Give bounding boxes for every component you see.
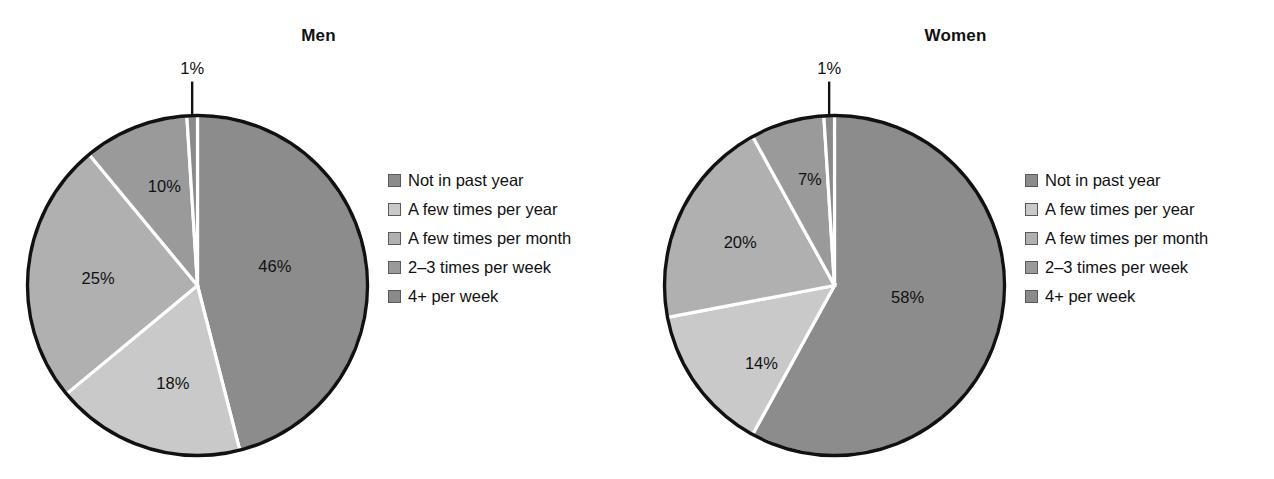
slice-label: 10% [148,177,181,195]
legend-item[interactable]: A few times per year [388,195,628,224]
legend-label: A few times per month [1045,230,1208,247]
legend-swatch-icon [388,261,401,274]
legend-item[interactable]: 2–3 times per week [1025,253,1265,282]
slice-label: 7% [798,170,822,188]
legend-label: 2–3 times per week [1045,259,1188,276]
panel-men: Men 46%18%25%10%1% Not in past yearA few… [0,0,637,479]
legend-swatch-icon [1025,290,1038,303]
slice-label: 14% [745,354,778,372]
legend-item[interactable]: Not in past year [388,166,628,195]
panel-title: Women [637,26,1274,46]
legend-label: Not in past year [1045,172,1161,189]
legend-item[interactable]: A few times per month [1025,224,1265,253]
slice-label: 1% [817,59,841,77]
pie-chart-men: 46%18%25%10%1% [25,113,370,458]
legend-item[interactable]: Not in past year [1025,166,1265,195]
slice-label: 20% [724,233,757,251]
slice-label: 1% [180,59,204,77]
legend-swatch-icon [388,232,401,245]
legend-label: A few times per year [1045,201,1194,218]
legend-swatch-icon [388,174,401,187]
legend-item[interactable]: 4+ per week [1025,282,1265,311]
legend-item[interactable]: A few times per month [388,224,628,253]
legend-label: A few times per year [408,201,557,218]
pie-svg: 58%14%20%7%1% [662,113,1007,458]
legend-swatch-icon [1025,261,1038,274]
legend-swatch-icon [1025,203,1038,216]
legend-label: 4+ per week [1045,288,1135,305]
legend-swatch-icon [1025,232,1038,245]
panel-title: Men [0,26,637,46]
legend-label: 4+ per week [408,288,498,305]
slice-label: 58% [891,288,924,306]
legend-men: Not in past yearA few times per yearA fe… [388,166,628,311]
pie-svg: 46%18%25%10%1% [25,113,370,458]
pie-chart-women: 58%14%20%7%1% [662,113,1007,458]
legend-swatch-icon [388,290,401,303]
legend-label: Not in past year [408,172,524,189]
legend-item[interactable]: A few times per year [1025,195,1265,224]
slice-label: 46% [258,257,291,275]
legend-label: 2–3 times per week [408,259,551,276]
legend-item[interactable]: 4+ per week [388,282,628,311]
legend-label: A few times per month [408,230,571,247]
legend-swatch-icon [1025,174,1038,187]
pie-chart-figure: Men 46%18%25%10%1% Not in past yearA few… [0,0,1274,479]
slice-label: 18% [156,374,189,392]
legend-item[interactable]: 2–3 times per week [388,253,628,282]
legend-women: Not in past yearA few times per yearA fe… [1025,166,1265,311]
slice-label: 25% [82,269,115,287]
panel-women: Women 58%14%20%7%1% Not in past yearA fe… [637,0,1274,479]
legend-swatch-icon [388,203,401,216]
